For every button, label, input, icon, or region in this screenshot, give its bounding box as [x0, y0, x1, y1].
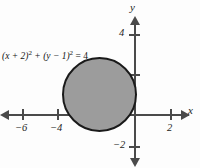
- x-tick-minus4: [57, 109, 59, 120]
- y-axis-down-arrow-icon: [130, 158, 140, 167]
- y-axis-up-arrow-icon: [130, 16, 140, 25]
- y-tick-4: [129, 34, 140, 36]
- y-tick-label-4: 4: [119, 27, 124, 38]
- x-tick-label-minus4: −4: [50, 122, 62, 133]
- equation-lead: (x + 2): [2, 51, 28, 61]
- y-axis-label: y: [130, 1, 135, 13]
- x-tick-minus6: [22, 109, 24, 120]
- x-tick-2: [170, 109, 172, 120]
- y-tick-minus2: [129, 146, 140, 148]
- x-axis-left-arrow-icon: [0, 110, 9, 120]
- equation-tail: = 4: [73, 51, 88, 61]
- x-tick-label-2: 2: [167, 122, 172, 133]
- circle-shape: [62, 57, 137, 132]
- y-tick-label-minus2: −2: [113, 139, 125, 150]
- x-tick-label-minus6: −6: [15, 122, 27, 133]
- equation-mid: + (y − 1): [32, 51, 70, 61]
- coordinate-plane-figure: −6 −4 2 4 −2 x y (x + 2)2 + (y − 1)2 = 4: [0, 0, 200, 168]
- equation-annotation: (x + 2)2 + (y − 1)2 = 4: [2, 49, 88, 61]
- x-axis-label: x: [188, 104, 193, 116]
